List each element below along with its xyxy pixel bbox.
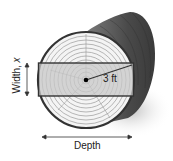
log-diagram [0, 0, 173, 161]
width-label-text: Width, [11, 62, 22, 93]
width-variable: x [11, 57, 22, 62]
width-arrow [25, 63, 29, 96]
radius-label: 3 ft [103, 73, 117, 84]
width-label: Width, x [11, 58, 22, 94]
center-point [84, 78, 89, 83]
depth-label: Depth [74, 140, 101, 151]
